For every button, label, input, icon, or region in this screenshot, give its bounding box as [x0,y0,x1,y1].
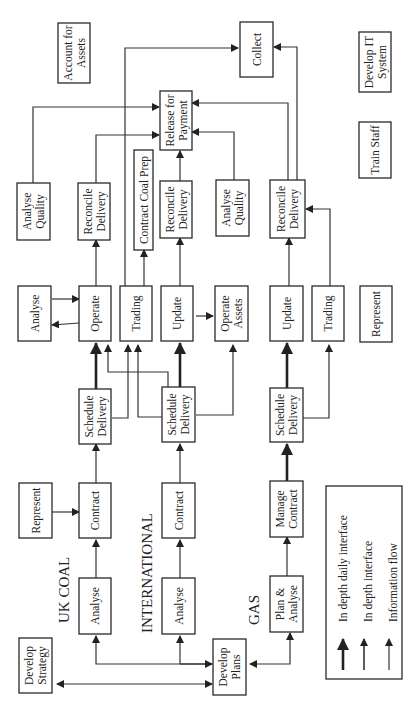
box-develop-strategy: DevelopStrategy [19,638,52,693]
connector [306,209,330,286]
box-label: Train Staff [369,125,381,175]
box-label: Update [281,297,294,330]
box-label: Assets [232,298,244,329]
box-analyse-quality-2: AnalyseQuality [216,180,249,236]
box-label: Develop IT [363,36,376,89]
box-label: Analyse [287,585,300,623]
box-label: Plan & [274,588,286,620]
box-label: System [376,45,389,79]
box-label: Analyse [29,295,42,333]
box-label: Delivery [96,396,109,436]
box-update-1: Update [161,286,193,341]
box-label: Reconcile [82,189,94,235]
box-label: Contract Coal Prep [138,156,151,244]
box-release-for-payment: Release forPayment [160,91,192,150]
box-label: Collect [251,32,263,66]
box-label: Quality [233,191,246,226]
connector [112,345,128,418]
box-develop-plans: DevelopPlans [213,639,246,695]
box-label: Delivery [177,189,190,229]
box-operate: Operate [79,286,111,341]
box-manage-contract: ManageContract [270,481,303,537]
process-diagram: Account forAssetsCollectDevelop ITSystem… [0,0,412,715]
box-label: Contract [173,490,185,530]
box-trading-1: Trading [120,286,152,341]
box-label: Reconcile [275,186,287,232]
box-contract-2: Contract [162,483,195,538]
box-label: Strategy [36,646,49,685]
box-account-for-assets: Account forAssets [58,23,90,83]
box-label: Update [171,297,184,330]
box-update-2: Update [270,286,303,341]
connector [250,633,290,664]
box-plan-analyse: Plan &Analyse [270,576,303,632]
connector [138,345,162,417]
box-label: Delivery [95,191,108,231]
box-schedule-delivery-2: ScheduleDelivery [162,387,195,442]
box-label: Delivery [179,394,192,434]
box-label: Reconcile [164,187,176,233]
box-contract-1: Contract [79,483,111,538]
box-represent-right: Represent [360,286,392,342]
box-reconcile-delivery-3: ReconcileDelivery [270,180,305,238]
connector [274,47,297,180]
box-reconcile-delivery-2: ReconcileDelivery [160,181,192,238]
box-label: Quality [34,194,47,229]
box-label: Assets [75,37,87,68]
section-label-gas: GAS [246,595,262,625]
connector [52,323,79,325]
section-label-uk-coal: UK COAL [56,557,72,623]
box-schedule-delivery-3: ScheduleDelivery [270,388,303,442]
box-label: Analyse [173,587,186,625]
box-label: Delivery [288,189,301,229]
box-label: Manage [274,490,287,527]
box-label: Schedule [83,395,95,437]
box-contract-coal-prep: Contract Coal Prep [134,150,153,250]
box-analyse-quality-1: AnalyseQuality [17,183,50,240]
box-label: Analyse [220,189,233,227]
box-schedule-delivery-1: ScheduleDelivery [79,389,111,444]
box-label: Operate [89,295,102,331]
box-label: Schedule [274,394,286,436]
box-trading-2: Trading [312,286,344,341]
legend-label-in-depth: In depth interface [362,541,375,622]
box-operate-assets: OperateAssets [215,286,248,341]
box-label: Delivery [287,395,300,435]
box-analyse-top: Analyse [18,286,51,341]
legend: In depth daily interface In depth interf… [326,486,402,679]
box-label: Plans [230,654,242,679]
box-label: Payment [177,100,190,141]
box-label: Trading [130,295,143,331]
box-label: Release for [164,94,176,146]
box-label: Represent [30,487,43,534]
connector [303,345,329,418]
box-label: Develop [23,646,36,685]
connector [96,636,212,664]
box-label: Develop [217,647,230,686]
connector [192,132,234,180]
box-label: Operate [219,295,232,331]
box-reconcile-delivery-1: ReconcileDelivery [78,183,110,240]
legend-label-info: Information flow [387,542,399,622]
box-analyse-intl: Analyse [162,578,195,634]
box-label: Represent [370,290,383,337]
box-label: Trading [322,295,335,331]
legend-label-daily: In depth daily interface [337,515,350,622]
box-train-staff: Train Staff [359,122,391,178]
box-develop-it-system: Develop ITSystem [359,32,391,92]
box-represent-left: Represent [19,483,52,538]
box-collect: Collect [240,22,273,77]
box-label: Schedule [166,393,178,435]
box-label: Analyse [21,193,34,231]
box-label: Contract [287,488,299,528]
connector [192,103,288,180]
box-label: Account for [62,25,74,80]
box-analyse-uk: Analyse [79,578,111,634]
connector [196,345,233,415]
box-label: Analyse [89,587,102,625]
section-label-international: INTERNATIONAL [139,513,155,633]
box-label: Contract [89,490,101,530]
